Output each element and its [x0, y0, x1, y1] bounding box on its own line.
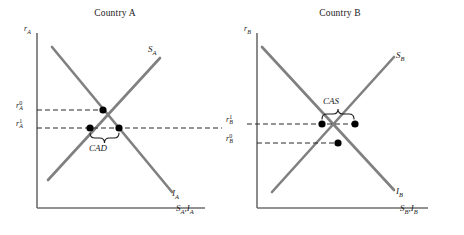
rate-label-r1-a: r1A: [16, 119, 23, 129]
investment-curve-label-a: IA: [172, 188, 179, 200]
supply-curve-a: [48, 58, 160, 180]
economics-figure: Country A Country B: [0, 0, 464, 235]
panel-country-a: [37, 33, 222, 208]
y-axis-label-a: rA: [24, 24, 31, 35]
equilibrium-dot-b: [334, 139, 341, 146]
gap-label-cad: CAD: [89, 143, 107, 153]
rate-label-r0-b: r0B: [226, 134, 233, 144]
gap-label-cas: CAS: [323, 96, 339, 106]
x-axis-label-b: SB,IB: [400, 203, 418, 215]
brace-cad: [90, 133, 119, 143]
x-axis-label-a: SA,IA: [176, 203, 194, 215]
saving-dot-a: [86, 124, 93, 131]
investment-curve-a: [52, 47, 172, 192]
supply-curve-label-a: SA: [148, 44, 156, 56]
supply-curve-label-b: SB: [396, 50, 404, 62]
saving-dot-b: [351, 120, 358, 127]
rate-label-r0-a: r0A: [16, 101, 23, 111]
equilibrium-dot-a: [99, 106, 106, 113]
investment-curve-b: [262, 47, 394, 190]
investment-dot-b: [318, 120, 325, 127]
rate-label-r1-b: r1B: [226, 115, 233, 125]
investment-curve-label-b: IB: [396, 186, 403, 198]
investment-dot-a: [115, 124, 122, 131]
y-axis-label-b: rB: [244, 24, 251, 35]
